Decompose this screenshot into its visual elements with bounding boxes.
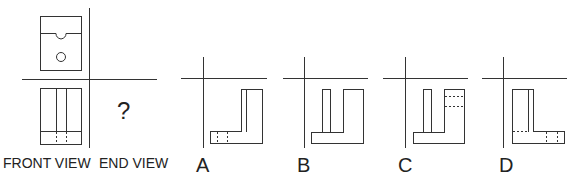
- end-view-label: END VIEW: [99, 155, 168, 171]
- option-a-label[interactable]: A: [196, 154, 209, 177]
- option-c-label[interactable]: C: [398, 154, 412, 177]
- question-mark: ?: [117, 97, 130, 125]
- option-b-label[interactable]: B: [297, 154, 310, 177]
- front-view-label: FRONT VIEW: [3, 155, 91, 171]
- option-a-drawing[interactable]: [181, 57, 267, 148]
- option-d-label[interactable]: D: [499, 154, 513, 177]
- projection-diagram: [0, 0, 574, 178]
- option-b-drawing[interactable]: [283, 57, 368, 148]
- top-view: [41, 17, 82, 71]
- option-c-drawing[interactable]: [383, 57, 468, 148]
- front-view: [41, 89, 82, 145]
- option-d-drawing[interactable]: [482, 57, 567, 148]
